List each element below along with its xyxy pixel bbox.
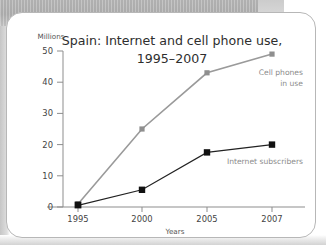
- screenshot-root: Spain: Internet and cell phone use, 1995…: [0, 0, 326, 245]
- y-tick-label-30: 30: [42, 108, 53, 118]
- x-axis-label: Years: [165, 227, 185, 236]
- series-markers-cell-phones-in-use: [75, 52, 274, 207]
- figure-card: Spain: Internet and cell phone use, 1995…: [6, 12, 316, 238]
- data-point-marker: [269, 141, 275, 147]
- y-tick-label-10: 10: [42, 171, 53, 181]
- x-tick-label-2005: 2005: [196, 214, 217, 224]
- data-point-marker: [204, 70, 209, 75]
- x-axis-ticks: 1995 2000 2005 2007: [67, 207, 282, 224]
- series-label-cell-phones-line1: Cell phones: [259, 68, 303, 77]
- y-tick-label-50: 50: [42, 46, 53, 56]
- series-label-internet-subscribers: Internet subscribers: [227, 157, 303, 166]
- y-tick-label-20: 20: [42, 140, 53, 150]
- chart-title-line1: Spain: Internet and cell phone use,: [62, 33, 283, 48]
- data-point-marker: [75, 202, 82, 209]
- series-label-cell-phones-line2: in use: [280, 79, 303, 88]
- series-line-internet-subscribers: [78, 145, 272, 206]
- data-point-marker: [139, 187, 145, 193]
- data-point-marker: [204, 149, 210, 155]
- x-tick-label-2007: 2007: [261, 214, 282, 224]
- y-axis-ticks: 50 40 30 20 10 0: [42, 46, 63, 212]
- data-point-marker: [269, 52, 274, 57]
- series-line-cell-phones-in-use: [78, 54, 272, 204]
- chart-title-line2: 1995–2007: [137, 51, 207, 66]
- y-axis-unit-label: Millions: [38, 32, 65, 41]
- x-tick-label-2000: 2000: [131, 214, 152, 224]
- y-tick-label-40: 40: [42, 77, 53, 87]
- data-point-marker: [139, 126, 144, 131]
- x-tick-label-1995: 1995: [67, 214, 88, 224]
- line-chart: Spain: Internet and cell phone use, 1995…: [7, 13, 317, 239]
- y-tick-label-0: 0: [48, 202, 53, 212]
